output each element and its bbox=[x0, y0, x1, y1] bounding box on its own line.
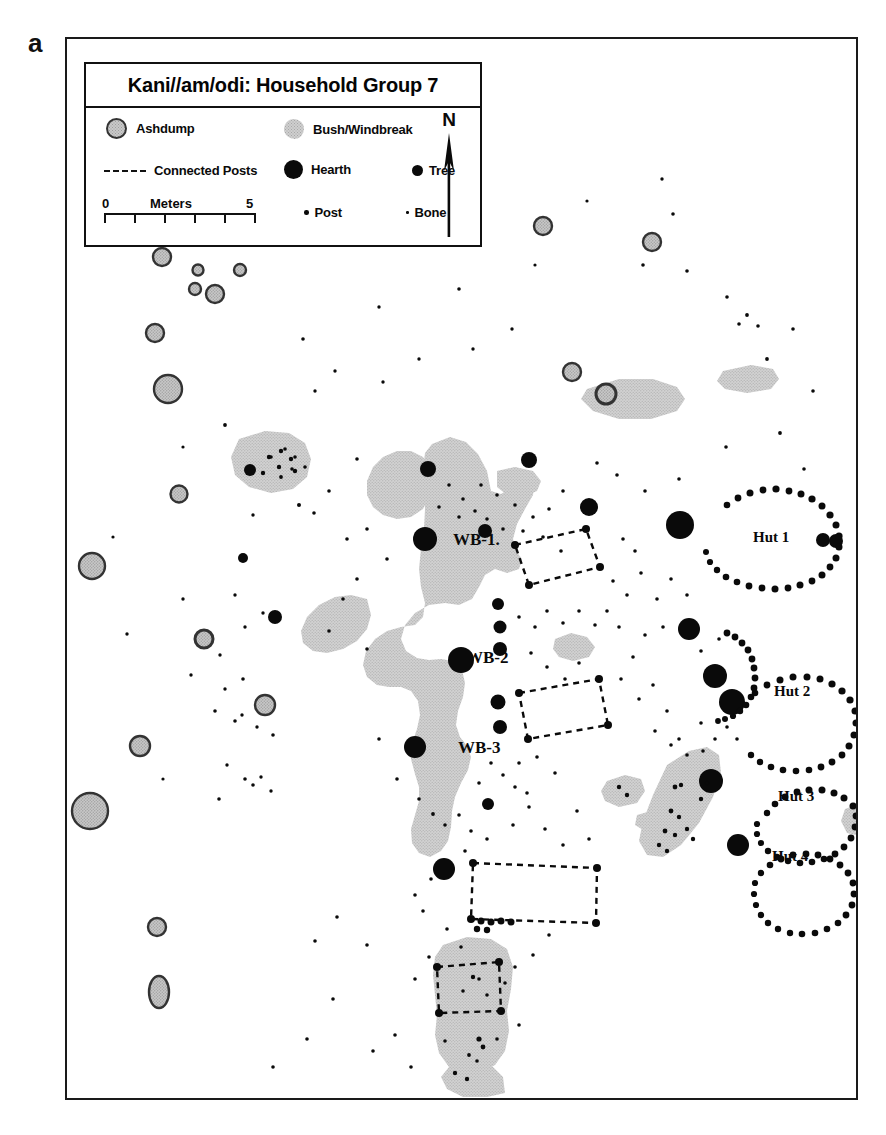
tree bbox=[491, 695, 506, 710]
scale-bar-line bbox=[104, 213, 256, 215]
bush-mid-left-spur bbox=[301, 595, 371, 653]
legend-item-hearth: Hearth bbox=[284, 160, 351, 179]
legend-label-ashdump: Ashdump bbox=[136, 121, 195, 136]
figure-root: a bbox=[0, 0, 886, 1135]
connected-posts-structure-2 bbox=[519, 679, 608, 739]
bush-windbreak-layer bbox=[231, 365, 856, 1097]
scale-tick bbox=[164, 213, 166, 223]
map-label-wb-3: WB-3 bbox=[458, 738, 501, 757]
ashdump bbox=[596, 384, 616, 404]
ashdump bbox=[643, 233, 661, 251]
ashdump bbox=[153, 248, 171, 266]
scale-min-label: 0 bbox=[102, 196, 109, 211]
hearth bbox=[678, 618, 700, 640]
legend-title: Kani//am/odi: Household Group 7 bbox=[128, 74, 438, 97]
hearth bbox=[404, 736, 426, 758]
hearth bbox=[699, 769, 723, 793]
bush-swatch-icon bbox=[284, 119, 304, 139]
connected-posts-structure-3 bbox=[471, 863, 597, 923]
ashdump bbox=[534, 217, 552, 235]
ashdump bbox=[171, 486, 188, 503]
legend-label-bush-windbreak: Bush/Windbreak bbox=[313, 122, 413, 137]
north-arrow-group: N bbox=[428, 110, 470, 242]
tree bbox=[492, 598, 504, 610]
post-swatch-icon bbox=[304, 210, 309, 215]
tree bbox=[580, 498, 598, 516]
hearth bbox=[413, 527, 437, 551]
north-arrow-icon bbox=[438, 131, 460, 239]
hearth bbox=[244, 464, 256, 476]
panel-letter: a bbox=[28, 30, 42, 56]
bush-upper-left-lobe bbox=[367, 451, 431, 519]
map-label-hut-4: Hut 4 bbox=[772, 848, 809, 864]
scale-tick bbox=[194, 213, 196, 223]
scale-bar-labels: 0 Meters 5 bbox=[102, 196, 262, 213]
ashdump bbox=[255, 695, 275, 715]
tree bbox=[420, 461, 436, 477]
hearth bbox=[727, 834, 749, 856]
ashdump bbox=[72, 793, 108, 829]
tree bbox=[494, 621, 507, 634]
ashdump bbox=[206, 285, 224, 303]
map-label-hut-1: Hut 1 bbox=[753, 529, 789, 545]
bush-far-upper-right bbox=[717, 365, 779, 393]
scale-max-label: 5 bbox=[246, 196, 253, 211]
map-label-hut-3: Hut 3 bbox=[778, 788, 814, 804]
hearth bbox=[268, 610, 282, 624]
map-label-wb-2: WB-2 bbox=[466, 648, 509, 667]
bush-lower-right-elongated bbox=[639, 747, 721, 857]
map-label-hut-2: Hut 2 bbox=[774, 683, 810, 699]
ashdump bbox=[563, 363, 581, 381]
scale-tick bbox=[134, 213, 136, 223]
bush-bottom-centre bbox=[433, 937, 513, 1073]
legend-item-post: Post bbox=[304, 205, 342, 220]
hearth bbox=[703, 664, 727, 688]
scale-bar-group: 0 Meters 5 bbox=[102, 196, 262, 225]
bone-swatch-icon bbox=[406, 211, 409, 214]
legend-title-row: Kani//am/odi: Household Group 7 bbox=[86, 64, 480, 108]
ashdump bbox=[193, 265, 204, 276]
ashdump bbox=[154, 375, 182, 403]
legend-item-connected-posts: Connected Posts bbox=[104, 163, 257, 178]
scale-bar bbox=[104, 213, 256, 225]
legend-item-bush-windbreak: Bush/Windbreak bbox=[284, 119, 413, 139]
bush-right-edge-sliver bbox=[841, 805, 856, 835]
scale-tick bbox=[224, 213, 226, 223]
legend-body: Ashdump Bush/Windbreak Connected Posts H… bbox=[86, 108, 480, 245]
bush-left-mid-bones bbox=[231, 431, 311, 493]
post-scatter-layer bbox=[111, 177, 814, 1068]
site-map-frame: WB-1. WB-2 WB-3 Hut 1 Hut 2 Hut 3 Hut 4 … bbox=[65, 37, 858, 1100]
dashed-line-icon bbox=[104, 170, 146, 172]
connected-posts-structure-1 bbox=[515, 529, 600, 585]
ashdump bbox=[195, 630, 213, 648]
tree bbox=[493, 720, 507, 734]
ashdump bbox=[234, 264, 246, 276]
hearth bbox=[666, 511, 694, 539]
ashdump bbox=[79, 553, 105, 579]
ashdump bbox=[130, 736, 150, 756]
hearth-swatch-icon bbox=[284, 160, 303, 179]
scale-unit-label: Meters bbox=[150, 196, 192, 211]
map-label-wb-1: WB-1. bbox=[453, 530, 500, 549]
tree bbox=[482, 798, 494, 810]
legend-label-hearth: Hearth bbox=[311, 162, 351, 177]
ashdump bbox=[146, 324, 164, 342]
map-legend: Kani//am/odi: Household Group 7 Ashdump … bbox=[84, 62, 482, 247]
tree bbox=[238, 553, 248, 563]
ashdump bbox=[189, 283, 201, 295]
north-label: N bbox=[442, 110, 456, 129]
tree-swatch-icon bbox=[412, 165, 423, 176]
scale-tick bbox=[254, 213, 256, 223]
ashdump bbox=[149, 976, 169, 1008]
ashdump-swatch-icon bbox=[106, 118, 127, 139]
legend-label-post: Post bbox=[315, 205, 342, 220]
ashdump bbox=[148, 918, 166, 936]
tree bbox=[521, 452, 537, 468]
tree bbox=[816, 533, 830, 547]
bush-right-of-wb2 bbox=[553, 633, 595, 661]
legend-item-ashdump: Ashdump bbox=[106, 118, 195, 139]
legend-label-connected-posts: Connected Posts bbox=[154, 163, 257, 178]
bush-lower-right-small bbox=[601, 775, 645, 807]
hearth bbox=[433, 858, 455, 880]
map-label-layer: WB-1. WB-2 WB-3 Hut 1 Hut 2 Hut 3 Hut 4 bbox=[453, 529, 814, 864]
